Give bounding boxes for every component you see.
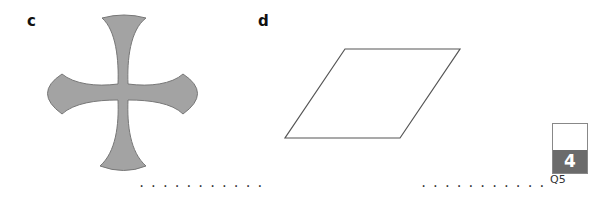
marks-box: 4 <box>552 123 588 174</box>
part-c-answer-line[interactable]: ........... <box>138 177 268 189</box>
part-d-label: d <box>258 14 269 29</box>
question-number: Q5 <box>550 174 566 185</box>
marks-score: 4 <box>553 150 587 173</box>
cross-shape <box>0 0 612 199</box>
part-d-answer-line[interactable]: ........... <box>420 177 550 189</box>
